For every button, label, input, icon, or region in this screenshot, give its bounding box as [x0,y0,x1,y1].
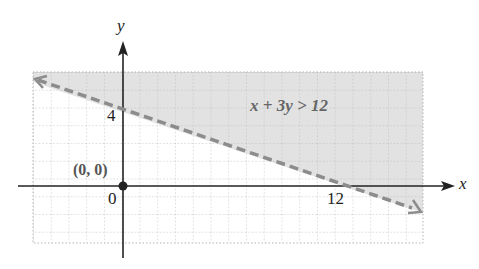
point-label: (0, 0) [73,161,108,179]
inequality-label: x + 3y > 12 [250,96,328,116]
origin-label: 0 [108,189,117,209]
test-point [119,182,128,191]
graph-canvas [0,0,479,269]
y-axis-label: y [117,16,125,36]
x-axis-label: x [459,174,467,194]
x-tick-label: 12 [327,189,344,209]
y-tick-label: 4 [107,106,116,126]
